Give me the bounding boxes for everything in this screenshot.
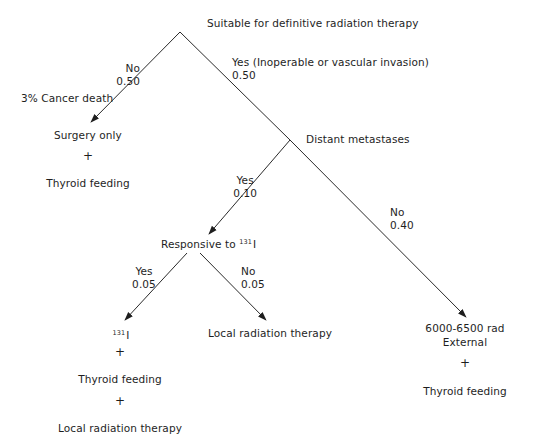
outcome-131i: 131I [113,327,130,342]
outcome-external-dose: 6000-6500 rad [425,322,504,335]
branch-label-mets-no: No 0.40 [390,206,414,232]
branch-label-resp-yes: Yes 0.05 [132,265,156,291]
node-responsive-to-131i: Responsive to 131I [161,236,256,251]
branch-answer: Yes (Inoperable or vascular invasion) [232,56,429,69]
branch-label-mets-yes: Yes 0.10 [233,174,257,200]
edge-mets-no [290,140,466,317]
plus-sign: + [83,150,93,163]
branch-probability: 0.40 [390,219,414,232]
root-question: Suitable for definitive radiation therap… [207,17,418,30]
decision-tree-diagram: Suitable for definitive radiation therap… [0,0,537,434]
branch-answer: Yes [233,174,257,187]
outcome-local-radiation-therapy: Local radiation therapy [208,327,332,340]
branch-answer: No [241,265,265,278]
branch-label-root-no: No 0.50 [116,62,140,88]
branch-label-resp-no: No 0.05 [241,265,265,291]
outcome-local-radiation-therapy: Local radiation therapy [58,422,182,434]
branch-label-root-yes: Yes (Inoperable or vascular invasion) 0.… [232,56,429,82]
plus-sign: + [115,346,125,359]
outcome-thyroid-feeding: Thyroid feeding [423,385,507,398]
branch-answer: No [116,62,140,75]
branch-probability: 0.50 [116,75,140,88]
branch-probability: 0.10 [233,187,257,200]
plus-sign: + [115,395,125,408]
branch-answer: Yes [132,265,156,278]
isotope-mass: 131 [239,238,252,246]
node-distant-metastases: Distant metastases [306,133,410,146]
cancer-death-annotation: 3% Cancer death [21,92,113,105]
outcome-external: External [443,336,487,349]
outcome-thyroid-feeding: Thyroid feeding [78,373,162,386]
node-label: Responsive to [161,238,239,250]
branch-probability: 0.05 [132,278,156,291]
outcome-surgery-only: Surgery only [54,129,122,142]
plus-sign: + [460,357,470,370]
isotope-symbol: I [253,238,256,250]
isotope-mass: 131 [113,329,126,337]
edge-root-yes [180,32,290,140]
isotope-symbol: I [126,329,129,341]
branch-answer: No [390,206,414,219]
branch-probability: 0.05 [241,278,265,291]
branch-probability: 0.50 [232,69,429,82]
outcome-thyroid-feeding: Thyroid feeding [46,177,130,190]
